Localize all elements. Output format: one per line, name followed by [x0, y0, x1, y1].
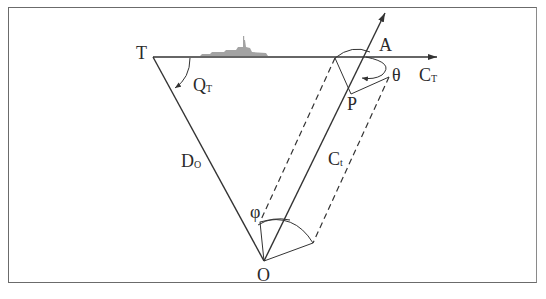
label-ct-target: CT: [419, 66, 437, 84]
label-qt-main: Q: [193, 75, 206, 95]
label-t: T: [136, 44, 147, 62]
label-theta: θ: [392, 66, 401, 84]
p-right-segment: [351, 77, 389, 94]
label-ct-sub: T: [431, 73, 437, 84]
label-ctown-sub: t: [340, 157, 343, 168]
theta-arc: [362, 57, 386, 79]
label-ct-own: Ct: [328, 150, 343, 168]
o-arc-outer: [260, 220, 313, 243]
p-left-segment: [335, 58, 351, 94]
label-a: A: [379, 36, 392, 54]
qt-arc: [175, 58, 190, 88]
label-do: DO: [181, 152, 201, 170]
label-ct-main: C: [419, 65, 431, 85]
geometry-diagram: [0, 0, 546, 299]
own-course-line: [264, 13, 385, 261]
label-o: O: [257, 266, 270, 284]
label-do-sub: O: [194, 159, 201, 170]
label-do-main: D: [181, 151, 194, 171]
label-qt-sub: T: [206, 83, 212, 94]
label-qt: QT: [193, 76, 212, 94]
label-p: P: [347, 95, 357, 113]
label-ctown-main: C: [328, 149, 340, 169]
ship-icon: [200, 36, 268, 56]
label-phi: φ: [250, 203, 260, 221]
